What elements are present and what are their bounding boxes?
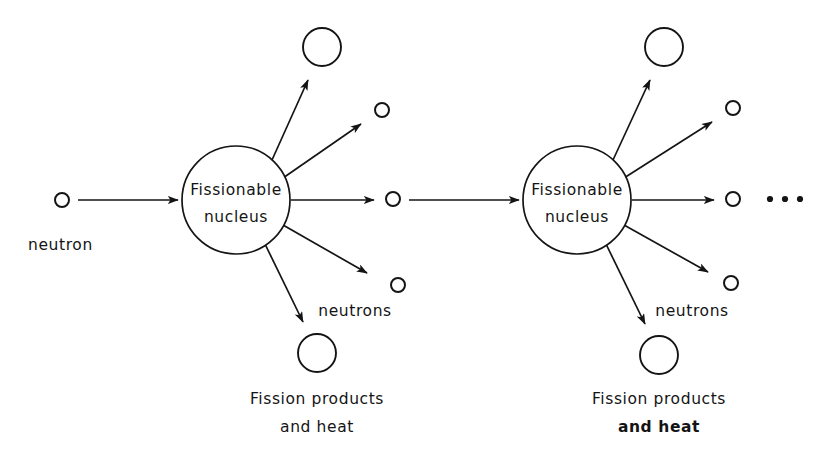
emitted-neutron-circle-upper-2 xyxy=(726,101,740,115)
fission-product-circle-bottom-2 xyxy=(640,336,678,374)
incoming-neutron-label: neutron xyxy=(28,236,93,254)
emitted-neutron-circle-middle xyxy=(386,192,400,206)
ellipsis-dot-3 xyxy=(797,196,803,202)
emission-arrow-up-left-2 xyxy=(613,80,650,160)
fission-products-caption-line1: Fission products xyxy=(250,390,384,408)
fission-products-caption-line1-2: Fission products xyxy=(592,390,726,408)
nucleus-label-line1: Fissionable xyxy=(190,181,282,199)
emission-arrow-up-right xyxy=(283,124,361,178)
fission-product-circle-bottom xyxy=(298,334,336,372)
fissionable-nucleus-circle xyxy=(182,146,290,254)
fission-products-caption-line2: and heat xyxy=(280,418,354,436)
emission-arrow-up-right-2 xyxy=(624,122,712,178)
stage-1: neutron Fissionable nucleus neutrons Fis… xyxy=(28,28,405,436)
emitted-neutron-circle-upper xyxy=(375,103,389,117)
emitted-neutron-circle-lower xyxy=(391,278,405,292)
emitted-neutron-circle-middle-2 xyxy=(726,192,740,206)
chain-continues-ellipsis xyxy=(767,196,803,202)
emission-arrow-down-right xyxy=(283,225,367,273)
fission-product-circle-top-2 xyxy=(645,28,683,66)
nucleus-label-line2: nucleus xyxy=(204,208,268,226)
fission-diagram-canvas: neutron Fissionable nucleus neutrons Fis… xyxy=(0,0,818,472)
emission-arrow-down-left xyxy=(265,244,303,322)
nucleus-label-line2-2: nucleus xyxy=(545,208,609,226)
nucleus-label-line1-2: Fissionable xyxy=(531,181,623,199)
emission-arrow-up-left xyxy=(272,80,308,160)
emission-arrow-down-right-2 xyxy=(624,225,708,272)
neutrons-label: neutrons xyxy=(318,302,391,320)
ellipsis-dot-1 xyxy=(767,196,773,202)
neutrons-label-2: neutrons xyxy=(655,302,728,320)
fission-product-circle-top xyxy=(303,28,341,66)
emitted-neutron-circle-lower-2 xyxy=(724,276,738,290)
emission-arrow-down-left-2 xyxy=(606,244,645,324)
ellipsis-dot-2 xyxy=(782,196,788,202)
stage-2: Fissionable nucleus neutrons Fission pro… xyxy=(523,28,740,436)
fission-products-caption-line2-2: and heat xyxy=(618,418,700,436)
fission-chain-diagram: neutron Fissionable nucleus neutrons Fis… xyxy=(0,0,818,472)
incoming-neutron-circle xyxy=(55,193,69,207)
fissionable-nucleus-circle-2 xyxy=(523,146,631,254)
